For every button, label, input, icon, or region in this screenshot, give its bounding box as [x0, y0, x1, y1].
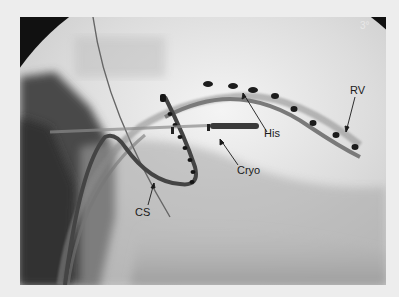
- upper-patch: [75, 37, 165, 77]
- label-his: His: [264, 127, 280, 139]
- cryo-band: [207, 124, 210, 131]
- field-of-view: [20, 17, 386, 285]
- fluoroscopy-image: His RV Cryo CS 3°: [20, 17, 386, 285]
- fluoroscopy-svg: His RV Cryo CS 3°: [20, 17, 386, 285]
- angle-label: 3°: [360, 20, 370, 31]
- label-rv: RV: [350, 84, 366, 96]
- label-cs: CS: [135, 206, 150, 218]
- label-cryo: Cryo: [237, 164, 260, 176]
- cryo-band: [171, 127, 174, 134]
- cryo-tip: [210, 123, 259, 129]
